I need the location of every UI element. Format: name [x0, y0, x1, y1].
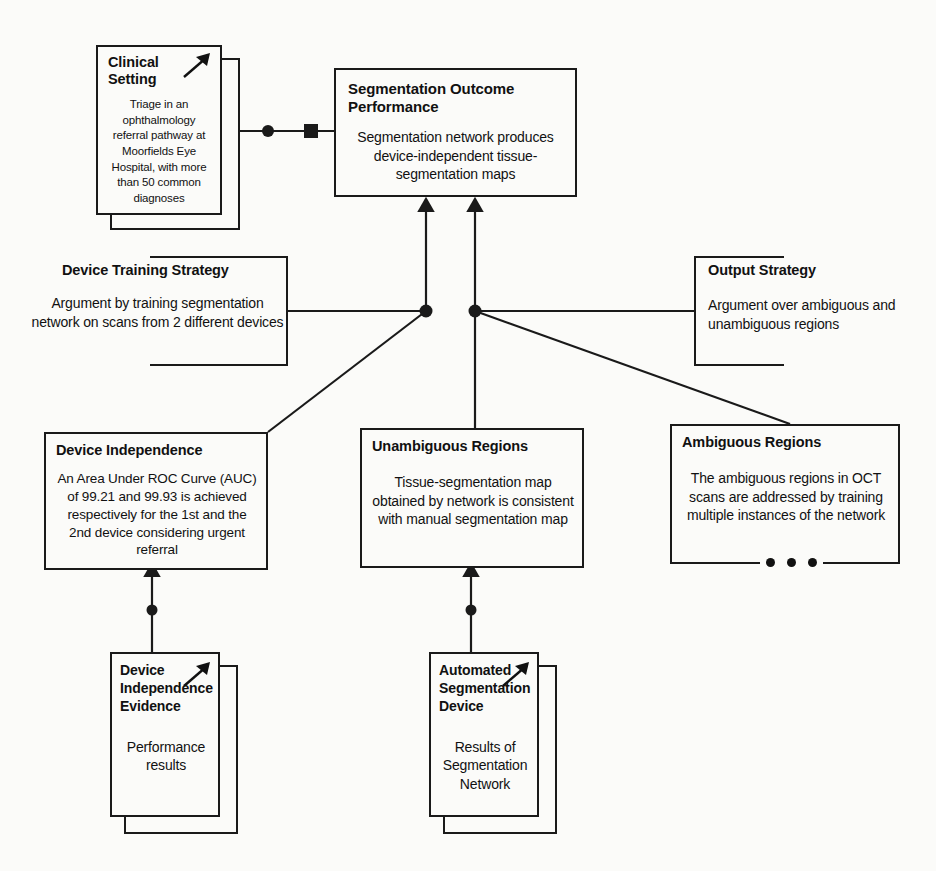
device-independence-body: An Area Under ROC Curve (AUC) of 99.21 a… [56, 470, 258, 559]
device-training-strategy-body: Argument by training segmentation networ… [30, 294, 285, 331]
segmentation-outcome-title: Segmentation Outcome Performance [348, 80, 563, 115]
ambiguous-regions-ellipsis-icon [760, 558, 823, 567]
arrow-up-right-icon [180, 660, 214, 690]
diagram-canvas: Clinical Setting Triage in an ophthalmol… [0, 0, 936, 871]
unambiguous-regions-title: Unambiguous Regions [372, 438, 574, 455]
node-device-independence-evidence[interactable]: Device Independence Evidence Performance… [110, 652, 220, 817]
arrow-up-right-icon [180, 51, 214, 81]
device-training-strategy-text: Device Training Strategy Argument by tra… [30, 258, 285, 364]
arrow-up-right-icon [499, 660, 533, 690]
node-clinical-setting[interactable]: Clinical Setting Triage in an ophthalmol… [96, 45, 222, 215]
unambiguous-regions-body: Tissue-segmentation map obtained by netw… [372, 473, 574, 528]
output-strategy-title: Output Strategy [706, 258, 934, 279]
ambiguous-regions-body: The ambiguous regions in OCT scans are a… [682, 469, 890, 524]
node-ambiguous-regions[interactable]: Ambiguous Regions The ambiguous regions … [670, 424, 900, 564]
output-strategy-text: Output Strategy Argument over ambiguous … [706, 258, 934, 364]
automated-segmentation-device-body: Results of Segmentation Network [439, 738, 531, 793]
device-training-strategy-title: Device Training Strategy [30, 258, 285, 279]
device-independence-title: Device Independence [56, 442, 258, 459]
node-automated-segmentation-device[interactable]: Automated Segmentation Device Results of… [429, 652, 539, 817]
device-independence-evidence-body: Performance results [120, 738, 212, 775]
node-segmentation-outcome-performance[interactable]: Segmentation Outcome Performance Segment… [334, 68, 577, 197]
output-strategy-body: Argument over ambiguous and unambiguous … [706, 296, 934, 333]
node-device-independence[interactable]: Device Independence An Area Under ROC Cu… [44, 432, 268, 570]
clinical-setting-body: Triage in an ophthalmology referral path… [108, 97, 210, 206]
ambiguous-regions-title: Ambiguous Regions [682, 434, 890, 451]
segmentation-outcome-body: Segmentation network produces device-ind… [348, 128, 563, 183]
node-unambiguous-regions[interactable]: Unambiguous Regions Tissue-segmentation … [360, 428, 584, 568]
